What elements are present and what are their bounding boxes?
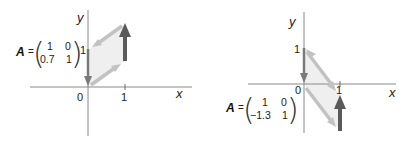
panel-left: y x 0 1 1 A = ( 1 0 0.7 1 ) bbox=[15, 10, 192, 136]
matrix-cell: 1 bbox=[47, 40, 53, 52]
right-paren: ) bbox=[71, 36, 83, 71]
x-axis-label: x bbox=[388, 85, 396, 100]
matrix-A-right: A = ( 1 0 −1.3 1 ) bbox=[225, 92, 299, 127]
y-axis-label: y bbox=[288, 14, 297, 29]
y-axis-label: y bbox=[76, 10, 85, 25]
matrix-A-left: A = ( 1 0 0.7 1 ) bbox=[15, 36, 83, 71]
matrix-name: A bbox=[225, 101, 235, 115]
matrix-name: A bbox=[15, 45, 25, 59]
matrix-cell: −1.3 bbox=[250, 109, 271, 121]
x-tick-label-1: 1 bbox=[336, 84, 342, 96]
matrix-cell: 1 bbox=[262, 96, 268, 108]
shear-diagrams: y x 0 1 1 A = ( 1 0 0.7 1 ) bbox=[0, 0, 410, 144]
x-axis-label: x bbox=[175, 86, 183, 101]
origin-label: 0 bbox=[77, 91, 83, 103]
matrix-cell: 0.7 bbox=[40, 53, 55, 65]
right-paren: ) bbox=[287, 92, 299, 127]
parallelogram-fill bbox=[88, 24, 125, 87]
x-tick-label-1: 1 bbox=[121, 91, 127, 103]
y-tick-label-1: 1 bbox=[294, 43, 300, 55]
panel-right: y x 0 1 1 A = ( 1 0 −1.3 1 ) bbox=[225, 12, 396, 133]
